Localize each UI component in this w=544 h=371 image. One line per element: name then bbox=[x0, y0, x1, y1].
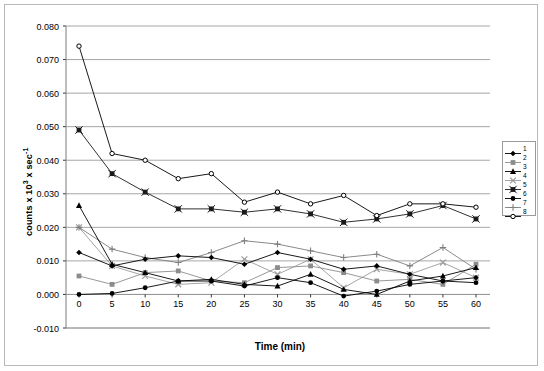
x-tick-label: 40 bbox=[339, 299, 349, 309]
data-point-plus bbox=[175, 259, 181, 265]
data-point-circle-open bbox=[441, 202, 445, 206]
chart-legend: 12345678 bbox=[502, 141, 536, 216]
legend-item-2[interactable]: 2 bbox=[503, 153, 535, 162]
x-tick-label: 0 bbox=[76, 299, 81, 309]
data-point-circle-filled bbox=[209, 279, 214, 284]
data-point-plus bbox=[407, 263, 413, 269]
legend-marker-plus-icon bbox=[504, 198, 522, 207]
data-point-circle-filled bbox=[407, 282, 412, 287]
data-point-circle-open bbox=[143, 158, 147, 162]
legend-item-8[interactable]: 8 bbox=[503, 207, 535, 216]
series-3 bbox=[76, 202, 479, 297]
legend-marker-square-filled-icon bbox=[504, 153, 522, 162]
data-point-plus bbox=[340, 254, 346, 260]
data-point-circle-open bbox=[341, 193, 345, 197]
data-point-square-filled bbox=[110, 282, 115, 287]
legend-item-5[interactable]: 5 bbox=[503, 180, 535, 189]
data-point-circle-filled bbox=[374, 289, 379, 294]
legend-item-3[interactable]: 3 bbox=[503, 162, 535, 171]
data-point-plus bbox=[241, 238, 247, 244]
data-point-plus bbox=[307, 248, 313, 254]
legend-label-4: 4 bbox=[523, 171, 527, 180]
legend-label-8: 8 bbox=[523, 207, 527, 216]
y-tick-label: 0.040 bbox=[36, 156, 59, 166]
y-tick-label: 0.070 bbox=[36, 55, 59, 65]
legend-item-6[interactable]: 6 bbox=[503, 189, 535, 198]
y-tick-label: 0.060 bbox=[36, 89, 59, 99]
data-point-circle-filled bbox=[308, 280, 313, 285]
legend-label-3: 3 bbox=[523, 162, 527, 171]
data-point-circle-filled bbox=[341, 294, 346, 299]
data-point-diamond-filled bbox=[242, 261, 248, 267]
x-axis-title: Time (min) bbox=[210, 341, 350, 352]
data-point-square-filled bbox=[308, 264, 313, 269]
data-point-plus bbox=[374, 251, 380, 257]
data-point-diamond-filled bbox=[209, 255, 215, 261]
x-tick-label: 50 bbox=[405, 299, 415, 309]
data-point-plus bbox=[109, 246, 115, 252]
legend-label-7: 7 bbox=[523, 198, 527, 207]
data-point-star-square bbox=[472, 215, 479, 222]
data-point-star-square bbox=[141, 188, 148, 195]
data-point-square-filled bbox=[176, 269, 181, 274]
y-tick-label: -0.010 bbox=[33, 324, 59, 334]
chart-plot-area: 0.0800.0700.0600.0500.0400.0300.0200.010… bbox=[0, 0, 544, 371]
legend-marker-circle-filled-icon bbox=[504, 189, 522, 198]
legend-item-7[interactable]: 7 bbox=[503, 198, 535, 207]
legend-marker-diamond-filled-icon bbox=[504, 144, 522, 153]
data-point-triangle-filled bbox=[308, 271, 314, 277]
data-point-circle-open bbox=[511, 214, 515, 218]
x-tick-label: 25 bbox=[239, 299, 249, 309]
data-point-circle-open bbox=[242, 200, 246, 204]
x-tick-label: 30 bbox=[272, 299, 282, 309]
data-point-circle-open bbox=[408, 202, 412, 206]
data-point-circle-filled bbox=[176, 279, 181, 284]
y-tick-label: 0.050 bbox=[36, 122, 59, 132]
data-point-circle-open bbox=[308, 202, 312, 206]
data-point-circle-open bbox=[474, 205, 478, 209]
series-5 bbox=[75, 126, 479, 226]
data-point-circle-open bbox=[110, 151, 114, 155]
data-point-diamond-filled bbox=[175, 253, 181, 259]
data-point-circle-filled bbox=[474, 280, 479, 285]
legend-label-6: 6 bbox=[523, 189, 527, 198]
x-tick-label: 10 bbox=[140, 299, 150, 309]
x-tick-label: 5 bbox=[110, 299, 115, 309]
data-point-star-square bbox=[75, 126, 82, 133]
data-point-circle-filled bbox=[143, 285, 148, 290]
x-tick-label: 20 bbox=[206, 299, 216, 309]
x-tick-label: 45 bbox=[372, 299, 382, 309]
data-point-circle-open bbox=[77, 44, 81, 48]
legend-marker-triangle-filled-icon bbox=[504, 162, 522, 171]
data-point-circle-open bbox=[209, 171, 213, 175]
x-tick-label: 35 bbox=[306, 299, 316, 309]
data-point-circle-filled bbox=[275, 275, 280, 280]
x-tick-label: 15 bbox=[173, 299, 183, 309]
legend-label-5: 5 bbox=[523, 180, 527, 189]
data-point-star-square bbox=[108, 170, 115, 177]
series-8 bbox=[77, 44, 478, 218]
y-tick-label: 0.030 bbox=[36, 189, 59, 199]
data-point-diamond-filled bbox=[275, 250, 281, 256]
y-tick-label: 0.080 bbox=[36, 22, 59, 32]
data-point-diamond-filled bbox=[76, 250, 82, 256]
data-point-circle-open bbox=[176, 176, 180, 180]
series-line-7 bbox=[79, 227, 476, 269]
data-point-square-filled bbox=[275, 265, 280, 270]
data-point-circle-open bbox=[275, 190, 279, 194]
data-point-circle-open bbox=[375, 213, 379, 217]
data-point-circle-filled bbox=[77, 292, 82, 297]
legend-marker-star-square-icon bbox=[504, 180, 522, 189]
y-tick-label: 0.020 bbox=[36, 223, 59, 233]
x-tick-label: 55 bbox=[438, 299, 448, 309]
data-point-triangle-filled bbox=[76, 202, 82, 208]
legend-item-4[interactable]: 4 bbox=[503, 171, 535, 180]
y-tick-label: 0.000 bbox=[36, 290, 59, 300]
legend-item-1[interactable]: 1 bbox=[503, 144, 535, 153]
chart-screenshot: counts x 103 x sec-1 0.0800.0700.0600.05… bbox=[0, 0, 544, 371]
legend-marker-cross-x-icon bbox=[504, 171, 522, 180]
y-tick-label: 0.010 bbox=[36, 256, 59, 266]
legend-marker-circle-open-icon bbox=[504, 207, 522, 216]
x-tick-label: 60 bbox=[471, 299, 481, 309]
legend-label-1: 1 bbox=[523, 144, 527, 153]
